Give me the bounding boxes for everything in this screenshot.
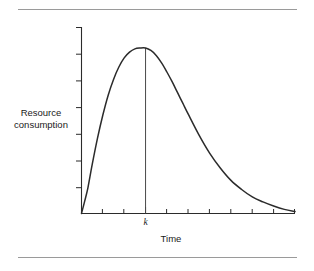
y-axis-ticks [76, 28, 81, 188]
y-axis-label: Resource consumption [8, 107, 74, 130]
y-axis-label-line2: consumption [14, 119, 68, 130]
plot-area [0, 0, 314, 271]
resource-consumption-curve [82, 48, 296, 214]
peak-marker-label: k [137, 217, 155, 227]
axes-group [81, 27, 295, 214]
y-axis-label-line1: Resource [21, 107, 62, 118]
x-axis-label: Time [148, 233, 194, 245]
figure-root: Resource consumption Time k [0, 0, 314, 271]
